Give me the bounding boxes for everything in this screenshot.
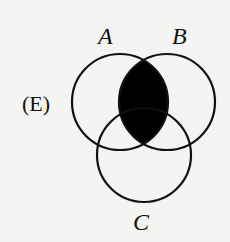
label-c: C — [133, 209, 150, 235]
option-label: (E) — [22, 91, 50, 116]
label-a: A — [96, 23, 113, 49]
label-b: B — [172, 23, 187, 49]
venn-diagram: A B (E) C — [0, 0, 230, 242]
